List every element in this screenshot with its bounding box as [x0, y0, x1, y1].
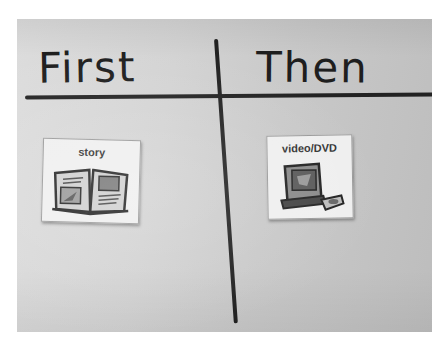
- first-then-board-photo: First Then story video/DVD: [17, 19, 432, 332]
- horizontal-divider: [25, 93, 432, 100]
- story-card: story: [41, 138, 141, 225]
- open-book-icon: [50, 163, 131, 217]
- story-card-label: story: [44, 145, 140, 160]
- video-dvd-card-label: video/DVD: [267, 141, 351, 154]
- then-heading: Then: [256, 43, 369, 93]
- television-dvd-icon: [275, 159, 346, 214]
- vertical-divider: [214, 39, 237, 324]
- first-heading: First: [38, 42, 137, 93]
- video-dvd-card: video/DVD: [266, 134, 353, 219]
